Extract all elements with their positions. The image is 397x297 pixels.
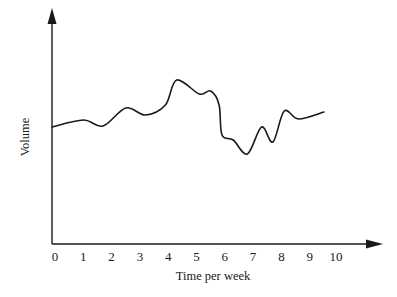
x-tick-label: 2 [108, 249, 115, 264]
volume-line [52, 80, 324, 154]
x-tick-label: 3 [137, 249, 144, 264]
x-tick-label: 4 [165, 249, 172, 264]
x-tick-label: 0 [52, 249, 59, 264]
x-tick-label: 1 [80, 249, 87, 264]
x-axis [52, 240, 383, 249]
y-axis-title: Volume [18, 117, 32, 156]
x-tick-label: 7 [250, 249, 257, 264]
line-chart: 012345678910 Time per week Volume [0, 0, 397, 297]
x-tick-label: 6 [222, 249, 229, 264]
x-tick-labels: 012345678910 [52, 249, 343, 264]
x-tick-label: 10 [330, 249, 343, 264]
y-axis-arrow-icon [48, 8, 57, 24]
x-axis-title: Time per week [176, 269, 251, 283]
x-tick-label: 9 [306, 249, 313, 264]
x-axis-arrow-icon [366, 240, 383, 249]
x-tick-label: 8 [278, 249, 285, 264]
x-tick-label: 5 [193, 249, 200, 264]
